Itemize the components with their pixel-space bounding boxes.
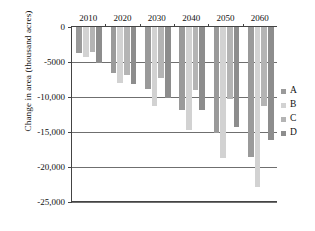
bar-group — [209, 27, 243, 201]
x-axis-tick-label: 2020 — [114, 13, 132, 23]
bar-group — [106, 27, 140, 201]
legend-item-d: D — [281, 126, 297, 140]
bar-a-2020 — [111, 27, 117, 73]
bar-d-2060 — [268, 27, 274, 140]
legend: ABCD — [281, 84, 297, 140]
bar-group — [141, 27, 175, 201]
legend-item-c: C — [281, 112, 297, 126]
y-axis-tick-label: -25,000 — [37, 197, 65, 207]
bar-d-2030 — [165, 27, 171, 98]
legend-label: A — [290, 86, 297, 96]
x-axis-tick-label: 2010 — [79, 13, 97, 23]
x-axis-tick-label: 2050 — [217, 13, 235, 23]
x-axis-tick-label: 2030 — [148, 13, 166, 23]
plot-area: 0-5000-10,000-15,000-20,000-25,000 — [71, 27, 277, 202]
bar-d-2040 — [199, 27, 205, 110]
x-axis-tick-label: 2040 — [182, 13, 200, 23]
bar-group — [72, 27, 106, 201]
bar-c-2020 — [124, 27, 130, 75]
bar-d-2050 — [234, 27, 240, 127]
y-axis-tick-label: -20,000 — [37, 162, 65, 172]
y-axis-tick-label: -15,000 — [37, 127, 65, 137]
y-axis-tick-label: -10,000 — [37, 92, 65, 102]
y-axis-tick-label: 0 — [61, 22, 66, 32]
legend-item-a: A — [281, 84, 297, 98]
legend-swatch-icon — [281, 117, 286, 122]
bar-b-2020 — [117, 27, 123, 83]
legend-label: B — [290, 100, 296, 110]
bar-b-2040 — [186, 27, 192, 130]
legend-swatch-icon — [281, 131, 286, 136]
bar-b-2010 — [83, 27, 89, 57]
bar-c-2060 — [261, 27, 267, 106]
bar-a-2040 — [179, 27, 185, 110]
bar-chart: Change in area (thousand acres) 20102020… — [0, 0, 315, 231]
y-axis-tick-label: -5000 — [44, 57, 65, 67]
legend-label: C — [290, 114, 296, 124]
bar-c-2030 — [158, 27, 164, 78]
bar-group — [244, 27, 278, 201]
legend-item-b: B — [281, 98, 297, 112]
bar-c-2010 — [90, 27, 96, 52]
gridline — [72, 202, 277, 203]
bar-a-2050 — [214, 27, 220, 133]
y-axis-tick — [68, 202, 72, 203]
bar-c-2050 — [227, 27, 233, 99]
legend-label: D — [290, 128, 297, 138]
bar-d-2010 — [96, 27, 102, 63]
legend-swatch-icon — [281, 89, 286, 94]
bar-c-2040 — [193, 27, 199, 90]
x-axis-tick-label: 2060 — [251, 13, 269, 23]
y-axis-title: Change in area (thousand acres) — [23, 0, 33, 151]
bar-b-2050 — [220, 27, 226, 158]
bar-b-2030 — [152, 27, 158, 106]
legend-swatch-icon — [281, 103, 286, 108]
bar-b-2060 — [255, 27, 261, 187]
bar-d-2020 — [131, 27, 137, 84]
bar-a-2030 — [145, 27, 151, 89]
bar-group — [175, 27, 209, 201]
bar-a-2060 — [248, 27, 254, 157]
bar-a-2010 — [76, 27, 82, 53]
